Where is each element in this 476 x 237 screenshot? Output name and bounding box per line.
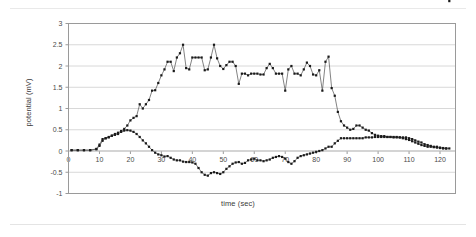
data-point-marker — [197, 167, 199, 169]
data-point-marker — [136, 115, 138, 117]
data-point-marker — [77, 149, 79, 151]
data-point-marker — [235, 65, 237, 67]
data-point-marker — [89, 149, 91, 151]
data-point-marker — [259, 73, 261, 75]
data-point-marker — [396, 136, 398, 138]
data-point-marker — [402, 137, 404, 139]
data-point-marker — [362, 137, 364, 139]
data-point-marker — [241, 73, 243, 75]
data-point-marker — [139, 136, 141, 138]
data-point-marker — [331, 87, 333, 89]
data-point-marker — [368, 130, 370, 132]
data-point-marker — [228, 165, 230, 167]
y-tick-label: -1 — [56, 190, 62, 197]
data-point-marker — [250, 158, 252, 160]
data-point-marker — [433, 146, 435, 148]
y-tick-label: 1 — [59, 105, 63, 112]
data-point-marker — [430, 146, 432, 148]
data-point-marker — [197, 56, 199, 58]
data-point-marker — [188, 68, 190, 70]
data-point-marker — [182, 161, 184, 163]
data-point-marker — [324, 61, 326, 63]
data-point-marker — [417, 143, 419, 145]
data-point-marker — [101, 140, 103, 142]
data-point-marker — [355, 137, 357, 139]
data-point-marker — [185, 161, 187, 163]
data-point-marker — [321, 90, 323, 92]
data-point-marker — [358, 124, 360, 126]
data-point-marker — [281, 156, 283, 158]
data-point-marker — [225, 168, 227, 170]
data-point-marker — [349, 129, 351, 131]
data-point-marker — [272, 157, 274, 159]
data-point-marker — [216, 57, 218, 59]
data-point-marker — [235, 161, 237, 163]
data-point-marker — [216, 172, 218, 174]
data-point-marker — [262, 160, 264, 162]
data-point-marker — [129, 130, 131, 132]
data-point-marker — [371, 136, 373, 138]
x-tick-label: 90 — [343, 156, 351, 163]
x-tick-label: 20 — [127, 156, 135, 163]
data-point-marker — [173, 158, 175, 160]
data-point-marker — [300, 74, 302, 76]
data-point-marker — [448, 0, 450, 2]
data-point-marker — [247, 159, 249, 161]
data-point-marker — [306, 62, 308, 64]
data-point-marker — [176, 159, 178, 161]
data-point-marker — [312, 73, 314, 75]
data-point-marker — [346, 127, 348, 129]
data-point-marker — [111, 135, 113, 137]
data-point-marker — [204, 69, 206, 71]
data-point-marker — [327, 56, 329, 58]
data-point-marker — [290, 163, 292, 165]
x-tick-label: 110 — [403, 156, 414, 163]
chart-figure: -1-0.500.511.522.53 01020304050607080901… — [0, 0, 476, 237]
data-point-marker — [151, 149, 153, 151]
data-point-marker — [300, 155, 302, 157]
data-point-marker — [287, 68, 289, 70]
data-point-marker — [331, 146, 333, 148]
x-axis-title: time (sec) — [178, 199, 298, 208]
data-point-marker — [95, 148, 97, 150]
data-point-marker — [182, 44, 184, 46]
y-tick-label: 0.5 — [53, 126, 63, 133]
data-point-marker — [173, 70, 175, 72]
data-point-marker — [352, 137, 354, 139]
data-point-marker — [98, 145, 100, 147]
data-point-marker — [417, 141, 419, 143]
data-point-marker — [142, 139, 144, 141]
data-point-marker — [318, 69, 320, 71]
data-point-marker — [290, 65, 292, 67]
data-point-marker — [293, 160, 295, 162]
data-point-marker — [297, 73, 299, 75]
data-point-marker — [151, 90, 153, 92]
data-point-marker — [414, 141, 416, 143]
data-point-marker — [309, 152, 311, 154]
y-axis-tick-labels: -1-0.500.511.522.53 — [50, 20, 62, 197]
data-point-marker — [163, 155, 165, 157]
data-point-marker — [420, 141, 422, 143]
data-point-marker — [219, 65, 221, 67]
data-point-marker — [244, 73, 246, 75]
data-point-marker — [213, 44, 215, 46]
data-point-marker — [284, 158, 286, 160]
data-point-marker — [157, 82, 159, 84]
data-point-marker — [148, 99, 150, 101]
data-point-marker — [368, 136, 370, 138]
data-point-marker — [105, 137, 107, 139]
y-tick-label: 2 — [59, 63, 63, 70]
data-point-marker — [346, 137, 348, 139]
data-point-marker — [380, 136, 382, 138]
data-point-marker — [250, 73, 252, 75]
data-point-marker — [126, 129, 128, 131]
data-point-marker — [166, 61, 168, 63]
data-point-marker — [284, 90, 286, 92]
data-series-layer — [71, 0, 451, 177]
data-point-marker — [334, 95, 336, 97]
data-point-marker — [371, 132, 373, 134]
data-point-marker — [297, 157, 299, 159]
y-tick-label: 1.5 — [53, 84, 63, 91]
data-point-marker — [185, 67, 187, 69]
data-point-marker — [318, 150, 320, 152]
